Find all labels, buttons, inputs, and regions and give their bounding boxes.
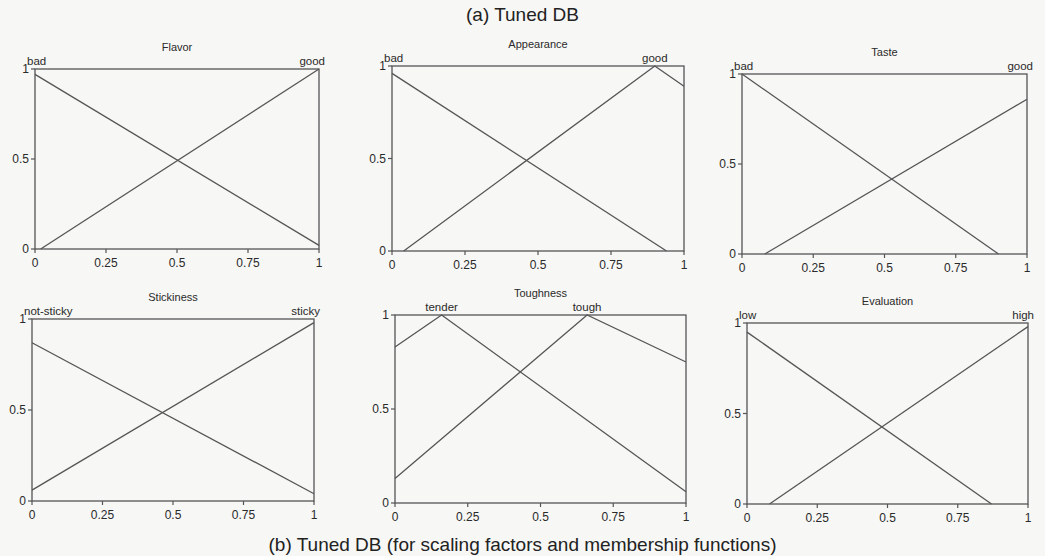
x-tick-label: 0 — [389, 258, 396, 272]
x-tick-label: 0.5 — [165, 508, 182, 522]
panel-title: Taste — [871, 46, 897, 58]
plot-frame — [747, 323, 1028, 504]
membership-line-bad — [35, 74, 319, 245]
y-tick-label: 0 — [734, 497, 741, 511]
y-tick-label: 0.5 — [719, 157, 736, 171]
panel-stickiness: Stickiness00.5100.250.50.751not-stickyst… — [9, 291, 320, 522]
set-label-bad: bad — [384, 52, 403, 64]
panel-toughness: Toughness00.5100.250.50.751tendertough — [372, 287, 689, 524]
x-tick-label: 0.25 — [802, 261, 826, 275]
x-tick-label: 0.75 — [599, 258, 623, 272]
y-tick-label: 0.5 — [724, 407, 741, 421]
x-tick-label: 1 — [1024, 261, 1031, 275]
x-tick-label: 1 — [681, 258, 688, 272]
membership-line-bad — [392, 73, 667, 251]
plot-frame — [392, 66, 684, 251]
y-tick-label: 0 — [729, 247, 736, 261]
panel-title: Evaluation — [862, 295, 913, 307]
x-tick-label: 0.5 — [530, 258, 547, 272]
set-label-tough: tough — [573, 301, 602, 313]
figure-caption: (b) Tuned DB (for scaling factors and me… — [0, 534, 1045, 556]
x-tick-label: 0.25 — [806, 511, 830, 525]
x-tick-label: 0.75 — [944, 261, 968, 275]
set-label-good: good — [299, 55, 325, 67]
x-tick-label: 0 — [29, 508, 36, 522]
membership-line-sticky — [32, 323, 314, 491]
x-tick-label: 0 — [32, 256, 39, 270]
plot-frame — [32, 319, 314, 501]
set-label-low: low — [739, 309, 757, 321]
x-tick-label: 0.25 — [94, 256, 118, 270]
set-label-tender: tender — [425, 301, 458, 313]
x-tick-label: 0.75 — [232, 508, 256, 522]
x-tick-label: 0.5 — [169, 256, 186, 270]
x-tick-label: 0 — [392, 510, 399, 524]
membership-line-good — [765, 99, 1027, 254]
membership-line-tough — [395, 315, 686, 479]
x-tick-label: 0.5 — [879, 511, 896, 525]
membership-line-low — [747, 332, 992, 504]
membership-line-bad — [742, 74, 999, 254]
set-label-good: good — [642, 52, 668, 64]
x-tick-label: 0.75 — [946, 511, 970, 525]
y-tick-label: 0 — [22, 242, 29, 256]
y-tick-label: 0.5 — [372, 402, 389, 416]
x-tick-label: 0 — [744, 511, 751, 525]
set-label-good: good — [1007, 60, 1033, 72]
x-tick-label: 0.75 — [602, 510, 626, 524]
x-tick-label: 0.25 — [453, 258, 477, 272]
y-tick-label: 0 — [19, 494, 26, 508]
membership-line-good — [41, 69, 319, 249]
x-tick-label: 1 — [683, 510, 690, 524]
panel-title: Appearance — [508, 38, 567, 50]
x-tick-label: 0 — [739, 261, 746, 275]
y-tick-label: 0.5 — [369, 152, 386, 166]
x-tick-label: 0.75 — [236, 256, 260, 270]
set-label-sticky: sticky — [291, 305, 320, 317]
plot-frame — [742, 74, 1027, 254]
x-tick-label: 1 — [311, 508, 318, 522]
panel-evaluation: Evaluation00.5100.250.50.751lowhigh — [724, 295, 1034, 525]
panel-appearance: Appearance00.5100.250.50.751badgood — [369, 38, 687, 272]
y-tick-label: 1 — [382, 308, 389, 322]
set-label-not-sticky: not-sticky — [24, 305, 73, 317]
set-label-bad: bad — [734, 60, 753, 72]
x-tick-label: 0.5 — [876, 261, 893, 275]
x-tick-label: 0.5 — [532, 510, 549, 524]
panel-title: Stickiness — [148, 291, 198, 303]
panel-flavor: Flavor00.5100.250.50.751badgood — [12, 41, 325, 270]
plot-frame — [395, 315, 686, 503]
panel-title: Flavor — [162, 41, 193, 53]
x-tick-label: 1 — [1025, 511, 1032, 525]
y-tick-label: 0.5 — [12, 152, 29, 166]
y-tick-label: 0 — [379, 244, 386, 258]
x-tick-label: 1 — [316, 256, 323, 270]
membership-line-high — [770, 327, 1029, 504]
y-tick-label: 0.5 — [9, 403, 26, 417]
x-tick-label: 0.25 — [91, 508, 115, 522]
panel-taste: Taste00.5100.250.50.751badgood — [719, 46, 1033, 275]
panel-title: Toughness — [514, 287, 568, 299]
set-label-bad: bad — [27, 55, 46, 67]
y-tick-label: 0 — [382, 496, 389, 510]
x-tick-label: 0.25 — [456, 510, 480, 524]
membership-line-good — [404, 66, 684, 251]
set-label-high: high — [1012, 309, 1034, 321]
membership-line-not-sticky — [32, 343, 314, 494]
